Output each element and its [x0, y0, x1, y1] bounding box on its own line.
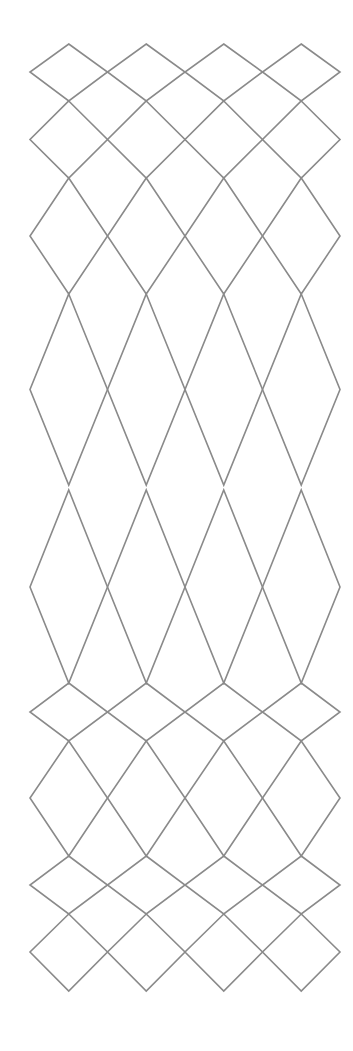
background [0, 0, 353, 1051]
diamond-lattice-diagram [0, 0, 353, 1051]
